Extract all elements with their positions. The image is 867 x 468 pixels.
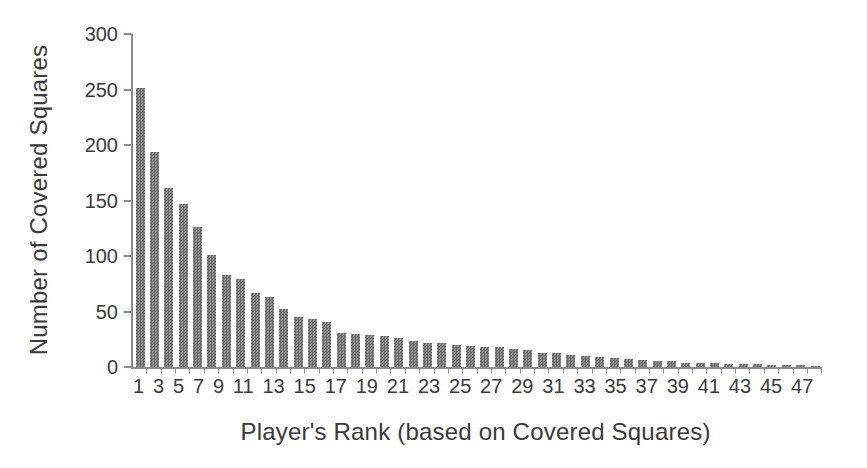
x-label-cell: [782, 375, 791, 397]
x-label-cell: [184, 375, 193, 397]
x-tick: [593, 367, 607, 373]
bar: [437, 343, 446, 367]
bar-cell-rank-36: [636, 34, 650, 367]
x-tick: [133, 367, 147, 373]
bar: [380, 336, 389, 367]
bar: [495, 347, 504, 367]
x-tick: [391, 367, 405, 373]
x-tick: [765, 367, 779, 373]
x-label-cell: [471, 375, 480, 397]
x-label-cell: [533, 375, 542, 397]
x-label-cell: 9: [213, 375, 224, 397]
bar-cell-rank-6: [205, 34, 219, 367]
x-tick-label: 1: [133, 375, 144, 397]
x-tick-label: 43: [729, 375, 751, 397]
y-tick: [124, 311, 131, 313]
bar-chart-figure: Number of Covered Squares 05010015020025…: [0, 0, 867, 468]
bar-cell-rank-41: [707, 34, 721, 367]
x-axis-title: Player's Rank (based on Covered Squares): [131, 418, 820, 446]
y-tick-label: 0: [63, 356, 118, 378]
bar: [538, 353, 547, 367]
bar: [236, 279, 245, 367]
x-tick: [190, 367, 204, 373]
x-tick-label: 45: [760, 375, 782, 397]
bar: [610, 358, 619, 367]
x-tick-label: 27: [480, 375, 502, 397]
x-label-cell: [164, 375, 173, 397]
bar: [279, 309, 288, 367]
bar: [566, 355, 575, 367]
bar-cell-rank-39: [679, 34, 693, 367]
bar: [265, 297, 274, 367]
bar: [222, 275, 231, 367]
x-tick: [334, 367, 348, 373]
x-label-cell: 1: [133, 375, 144, 397]
x-label-cell: 3: [153, 375, 164, 397]
y-tick: [124, 33, 131, 35]
bar: [624, 359, 633, 367]
y-tick-label: 100: [63, 245, 118, 267]
x-label-cell: 17: [325, 375, 347, 397]
x-tick: [636, 367, 650, 373]
y-tick: [124, 366, 131, 368]
x-tick-label: 31: [542, 375, 564, 397]
bar-cell-rank-37: [650, 34, 664, 367]
x-label-cell: [658, 375, 667, 397]
bar-cell-rank-30: [549, 34, 563, 367]
bar: [251, 293, 260, 367]
bar: [394, 338, 403, 367]
x-tick: [205, 367, 219, 373]
x-label-cell: 41: [698, 375, 720, 397]
x-tick: [435, 367, 449, 373]
x-tick: [291, 367, 305, 373]
bar: [409, 341, 418, 367]
x-tick: [176, 367, 190, 373]
x-label-cell: [565, 375, 574, 397]
x-label-cell: 33: [573, 375, 595, 397]
x-tick: [535, 367, 549, 373]
x-tick-label: 3: [153, 375, 164, 397]
x-label-cell: [378, 375, 387, 397]
bar-cell-rank-21: [420, 34, 434, 367]
bar: [351, 334, 360, 367]
bar: [164, 188, 173, 367]
bar-cell-rank-29: [535, 34, 549, 367]
x-tick: [664, 367, 678, 373]
x-tick: [736, 367, 750, 373]
x-label-cell: [204, 375, 213, 397]
y-tick-label: 300: [63, 23, 118, 45]
x-tick: [650, 367, 664, 373]
bar-cell-rank-24: [463, 34, 477, 367]
x-tick: [564, 367, 578, 373]
x-tick: [607, 367, 621, 373]
bar-cell-rank-22: [435, 34, 449, 367]
x-label-cell: 37: [636, 375, 658, 397]
x-tick-label: 35: [604, 375, 626, 397]
x-tick-label: 37: [636, 375, 658, 397]
x-tick-label: 29: [511, 375, 533, 397]
x-axis-ticks: [133, 367, 822, 373]
bar-cell-rank-12: [291, 34, 305, 367]
x-label-cell: 39: [667, 375, 689, 397]
bar-cell-rank-4: [176, 34, 190, 367]
bar-cell-rank-44: [750, 34, 764, 367]
x-tick: [578, 367, 592, 373]
x-label-cell: 23: [418, 375, 440, 397]
x-tick: [478, 367, 492, 373]
x-label-cell: 15: [294, 375, 316, 397]
bar-cell-rank-1: [133, 34, 147, 367]
x-label-cell: 47: [791, 375, 813, 397]
x-tick: [521, 367, 535, 373]
x-tick-label: 9: [213, 375, 224, 397]
bar: [207, 255, 216, 367]
x-label-cell: 5: [173, 375, 184, 397]
x-tick: [262, 367, 276, 373]
x-label-cell: [689, 375, 698, 397]
bar-cell-rank-28: [521, 34, 535, 367]
x-tick: [420, 367, 434, 373]
x-label-cell: [627, 375, 636, 397]
bar-cell-rank-26: [492, 34, 506, 367]
bar: [595, 357, 604, 367]
bar: [322, 322, 331, 368]
x-tick: [147, 367, 161, 373]
